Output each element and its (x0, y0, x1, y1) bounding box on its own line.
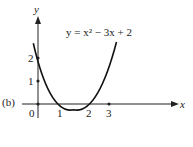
y-tick-1-point (36, 79, 39, 82)
x-tick-3-point (107, 102, 110, 105)
x-tick-2: 2 (86, 108, 92, 119)
panel-label: (b) (2, 97, 15, 108)
equation-label: y = x² − 3x + 2 (66, 27, 132, 38)
x-tick-0: 0 (29, 108, 35, 119)
parabola-plot (0, 0, 193, 147)
y-tick-1: 1 (28, 76, 34, 87)
y-axis-arrow-icon (35, 16, 41, 24)
x-axis-label: x (180, 99, 185, 110)
parabola-curve (33, 42, 116, 110)
y-tick-2: 2 (28, 53, 34, 64)
x-axis-arrow-icon (171, 101, 179, 107)
origin-point (36, 102, 39, 105)
x-tick-1: 1 (57, 108, 63, 119)
x-tick-3: 3 (106, 108, 112, 119)
y-axis-label: y (34, 4, 39, 15)
